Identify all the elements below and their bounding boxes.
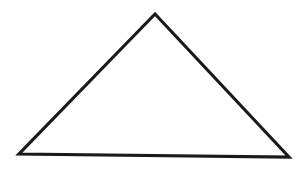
diagram-canvas — [0, 0, 307, 169]
triangle-shape — [19, 14, 289, 157]
